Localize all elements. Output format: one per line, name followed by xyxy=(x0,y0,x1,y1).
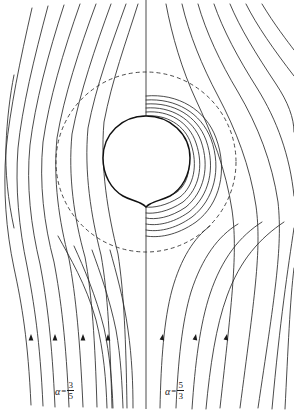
streamlines-right xyxy=(160,4,294,409)
streamline-right-11 xyxy=(176,224,238,408)
fraction-numerator-right: 5 xyxy=(178,381,185,390)
nearbody-left-3 xyxy=(92,250,123,408)
streamline-right-8 xyxy=(272,228,294,409)
flow-direction-arrow-7 xyxy=(224,334,229,341)
fraction-numerator-left: 3 xyxy=(68,381,75,390)
flow-direction-arrow-3 xyxy=(81,334,86,340)
streamline-right-3 xyxy=(198,4,279,408)
equals-symbol-left: = xyxy=(61,386,66,396)
streamline-right-13 xyxy=(206,222,284,409)
obstacle-body xyxy=(103,116,190,207)
alpha-symbol-left: α xyxy=(55,386,60,397)
equals-symbol-right: = xyxy=(171,386,176,396)
streamline-right-7 xyxy=(262,4,294,50)
flow-direction-arrow-2 xyxy=(53,334,58,340)
field-line-plot xyxy=(0,0,294,411)
streamline-left-9 xyxy=(103,4,138,408)
streamline-left-8 xyxy=(87,4,126,408)
flow-direction-arrow-5 xyxy=(160,334,165,341)
streamline-right-5 xyxy=(230,4,294,132)
alpha-symbol-right: α xyxy=(165,386,170,397)
fraction-denominator-left: 5 xyxy=(68,392,75,401)
fraction-denominator-right: 3 xyxy=(178,392,185,401)
streamline-right-2 xyxy=(182,4,258,408)
label-alpha-left: α = 3 5 xyxy=(55,381,74,401)
label-alpha-right: α = 5 3 xyxy=(165,381,184,401)
flow-direction-arrow-6 xyxy=(193,334,198,341)
streamline-right-9 xyxy=(285,268,294,409)
fraction-left: 3 5 xyxy=(67,381,74,401)
streamline-right-4 xyxy=(214,4,294,196)
figure-container: α = 3 5 α = 5 3 xyxy=(0,0,294,411)
flow-direction-arrow-1 xyxy=(29,334,34,340)
streamlines-left xyxy=(5,4,138,408)
streamline-left-3 xyxy=(6,75,14,228)
fraction-right: 5 3 xyxy=(177,381,184,401)
